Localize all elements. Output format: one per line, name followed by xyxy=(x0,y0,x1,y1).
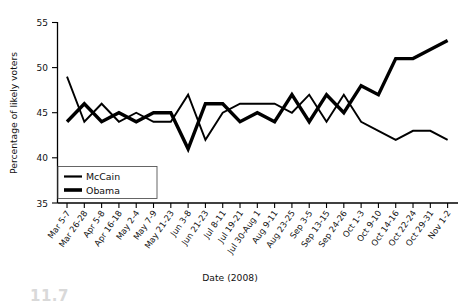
series-line-mccain xyxy=(67,77,448,140)
y-tick-label: 45 xyxy=(37,108,48,118)
legend-label-mccain: McCain xyxy=(86,171,120,182)
legend: McCain Obama xyxy=(58,167,157,199)
y-axis-tick-labels: 55 50 45 40 35 xyxy=(37,18,49,209)
y-tick-label: 40 xyxy=(37,153,49,163)
figure-container: 55 50 45 40 35 Percentage of likely vote… xyxy=(0,0,470,301)
y-axis-ticks xyxy=(52,23,58,204)
figure-caption-partial: 11.7 xyxy=(30,287,69,301)
x-axis-tick-labels: Mar 5-7Mar 26-28Apr 5-8Apr 16-18May 2-4M… xyxy=(46,208,453,256)
y-tick-label: 50 xyxy=(37,63,49,73)
series-line-obama xyxy=(67,41,448,149)
y-tick-label: 55 xyxy=(37,18,48,28)
legend-label-obama: Obama xyxy=(86,185,120,196)
x-axis-title: Date (2008) xyxy=(202,272,257,283)
y-axis-title: Percentage of likely voters xyxy=(8,52,19,174)
x-axis-ticks xyxy=(67,203,448,208)
poll-line-chart: 55 50 45 40 35 Percentage of likely vote… xyxy=(0,0,470,301)
y-tick-label: 35 xyxy=(37,199,48,209)
